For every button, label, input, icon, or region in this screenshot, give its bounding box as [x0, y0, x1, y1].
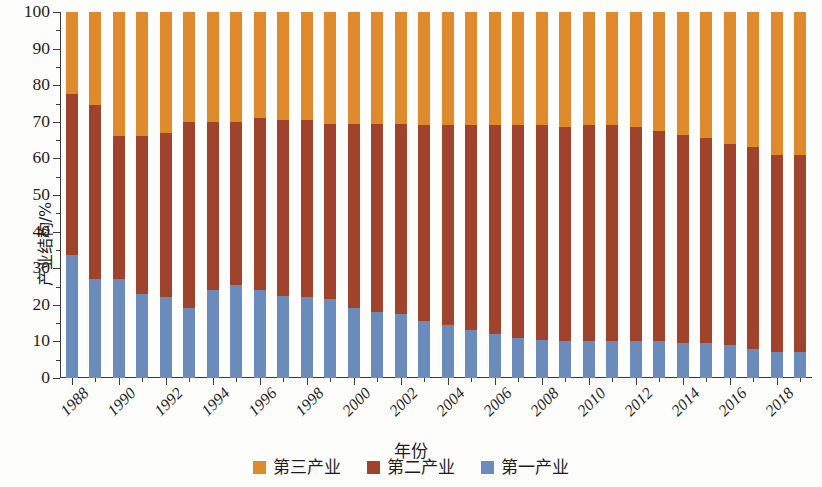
- bar-segment-secondary: [512, 125, 524, 337]
- bar-2013[interactable]: [653, 12, 665, 378]
- y-tick-minor: [56, 177, 60, 178]
- x-tick-label: 1990: [104, 384, 140, 420]
- bar-segment-secondary: [348, 124, 360, 309]
- bar-2019[interactable]: [794, 12, 806, 378]
- bar-2014[interactable]: [677, 12, 689, 378]
- bar-2017[interactable]: [747, 12, 759, 378]
- bar-segment-secondary: [395, 124, 407, 314]
- bar-2005[interactable]: [465, 12, 477, 378]
- bar-segment-secondary: [418, 125, 430, 321]
- y-tick: [53, 341, 60, 342]
- bar-segment-tertiary: [207, 12, 219, 122]
- bar-segment-secondary: [160, 133, 172, 298]
- y-tick-minor: [56, 67, 60, 68]
- bar-segment-primary: [324, 299, 336, 378]
- bar-segment-tertiary: [489, 12, 501, 125]
- bar-segment-tertiary: [583, 12, 595, 125]
- bar-2012[interactable]: [630, 12, 642, 378]
- bar-segment-tertiary: [606, 12, 618, 125]
- bar-1997[interactable]: [277, 12, 289, 378]
- y-tick-minor: [56, 360, 60, 361]
- bar-segment-secondary: [559, 127, 571, 341]
- bar-2007[interactable]: [512, 12, 524, 378]
- x-tick-label: 2002: [386, 384, 422, 420]
- bar-segment-tertiary: [395, 12, 407, 124]
- bar-segment-tertiary: [160, 12, 172, 133]
- bar-segment-tertiary: [136, 12, 148, 136]
- bar-1991[interactable]: [136, 12, 148, 378]
- bar-1994[interactable]: [207, 12, 219, 378]
- y-tick-minor: [56, 30, 60, 31]
- bar-2018[interactable]: [771, 12, 783, 378]
- y-tick-minor: [56, 323, 60, 324]
- bar-1988[interactable]: [66, 12, 78, 378]
- x-tick-label: 2014: [668, 384, 704, 420]
- legend-item-2[interactable]: 第一产业: [481, 459, 569, 476]
- x-tick-label: 2008: [527, 384, 563, 420]
- legend-swatch-icon: [481, 461, 494, 474]
- bar-segment-tertiary: [254, 12, 266, 118]
- x-tick-minor: [800, 378, 801, 382]
- bar-segment-primary: [771, 352, 783, 378]
- bar-segment-secondary: [136, 136, 148, 293]
- y-tick: [53, 195, 60, 196]
- bar-2015[interactable]: [700, 12, 712, 378]
- bar-segment-tertiary: [66, 12, 78, 94]
- bar-segment-primary: [630, 341, 642, 378]
- bar-segment-primary: [653, 341, 665, 378]
- bar-2016[interactable]: [724, 12, 736, 378]
- bar-segment-primary: [348, 308, 360, 378]
- bar-segment-secondary: [89, 105, 101, 279]
- bar-2011[interactable]: [606, 12, 618, 378]
- bar-2006[interactable]: [489, 12, 501, 378]
- bar-1992[interactable]: [160, 12, 172, 378]
- legend-swatch-icon: [253, 461, 266, 474]
- bar-segment-secondary: [324, 124, 336, 300]
- y-tick-label: 0: [41, 369, 50, 387]
- legend-item-0[interactable]: 第三产业: [253, 459, 341, 476]
- bar-2001[interactable]: [371, 12, 383, 378]
- bar-segment-secondary: [606, 125, 618, 341]
- bar-2003[interactable]: [418, 12, 430, 378]
- bar-2008[interactable]: [536, 12, 548, 378]
- bar-segment-tertiary: [113, 12, 125, 136]
- y-tick-label: 80: [33, 76, 51, 94]
- y-tick: [53, 232, 60, 233]
- bar-2009[interactable]: [559, 12, 571, 378]
- bar-1999[interactable]: [324, 12, 336, 378]
- x-tick-minor: [612, 378, 613, 382]
- bar-2000[interactable]: [348, 12, 360, 378]
- bar-segment-primary: [559, 341, 571, 378]
- bar-segment-primary: [583, 341, 595, 378]
- bar-segment-secondary: [465, 125, 477, 330]
- legend-item-1[interactable]: 第二产业: [367, 459, 455, 476]
- y-tick-label: 90: [33, 40, 51, 58]
- bar-segment-tertiary: [771, 12, 783, 155]
- y-tick-label: 70: [33, 113, 51, 131]
- bar-segment-primary: [512, 338, 524, 378]
- legend-swatch-icon: [367, 461, 380, 474]
- bar-segment-primary: [536, 340, 548, 378]
- bar-1989[interactable]: [89, 12, 101, 378]
- bar-2010[interactable]: [583, 12, 595, 378]
- bar-segment-tertiary: [465, 12, 477, 125]
- bar-segment-secondary: [536, 125, 548, 339]
- x-tick-label: 2004: [433, 384, 469, 420]
- bar-2002[interactable]: [395, 12, 407, 378]
- bar-1998[interactable]: [301, 12, 313, 378]
- x-tick-label: 2000: [339, 384, 375, 420]
- bar-1996[interactable]: [254, 12, 266, 378]
- y-tick-label: 100: [24, 3, 50, 21]
- x-tick-minor: [424, 378, 425, 382]
- y-tick: [53, 305, 60, 306]
- bar-segment-secondary: [771, 155, 783, 353]
- x-tick-label: 1988: [57, 384, 93, 420]
- bar-2004[interactable]: [442, 12, 454, 378]
- bar-segment-tertiary: [677, 12, 689, 135]
- bar-segment-tertiary: [324, 12, 336, 124]
- x-tick-minor: [189, 378, 190, 382]
- bar-1995[interactable]: [230, 12, 242, 378]
- legend: 第三产业第二产业第一产业: [0, 459, 822, 476]
- bar-1993[interactable]: [183, 12, 195, 378]
- bar-1990[interactable]: [113, 12, 125, 378]
